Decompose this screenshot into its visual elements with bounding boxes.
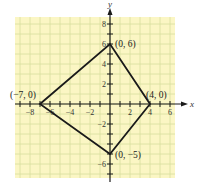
x-tick-label: 4 (148, 108, 152, 117)
x-tick-label: 2 (128, 108, 132, 117)
x-tick-label: −4 (66, 108, 75, 117)
x-tick-label: −2 (86, 108, 95, 117)
vertex-label: (0, 6) (115, 39, 136, 50)
vertex-label: (4, 0) (146, 90, 167, 101)
y-tick-label: −6 (97, 160, 106, 169)
coordinate-plane-chart: xy−8−6−4−22468642−2−6(−7, 0)(0, 6)(4, 0)… (0, 0, 200, 189)
y-tick-label: −2 (97, 120, 106, 129)
y-tick-label: 2 (102, 80, 106, 89)
y-tick-label: 8 (102, 20, 106, 29)
y-axis-label: y (107, 0, 112, 9)
x-axis-label: x (189, 99, 194, 109)
vertex-label: (0, −5) (115, 150, 141, 161)
vertex-label: (−7, 0) (10, 90, 36, 101)
x-tick-label: 6 (168, 108, 172, 117)
x-axis-arrow-icon (181, 102, 188, 107)
x-tick-label: −8 (26, 108, 35, 117)
y-tick-label: 4 (102, 60, 106, 69)
y-axis-arrow-icon (108, 8, 113, 15)
chart-svg: xy−8−6−4−22468642−2−6(−7, 0)(0, 6)(4, 0)… (0, 0, 200, 189)
